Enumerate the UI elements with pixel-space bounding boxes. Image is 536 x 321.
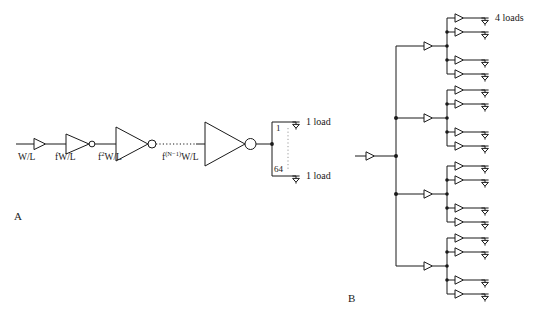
branch-group-2	[396, 86, 489, 154]
leaf-buffer	[447, 128, 489, 140]
stage-label-2: fW/L	[55, 153, 76, 163]
leaf-buffer	[447, 100, 489, 112]
leaf-buffer	[447, 276, 489, 288]
leaf-buffer	[447, 218, 489, 230]
circuit-diagram-canvas: .wire { stroke: #1a1a1a; stroke-width: 1…	[0, 0, 536, 321]
leaf-buffer	[447, 204, 489, 216]
leaf-buffer	[447, 248, 489, 260]
stage-label-3-suffix: W/L	[104, 152, 121, 162]
stage-label-1: W/L	[18, 153, 35, 163]
load-symbol-bottom	[292, 176, 299, 184]
leaf-buffer	[447, 290, 489, 302]
leaf-buffer	[447, 234, 489, 246]
stage-label-3: f2W/L	[98, 153, 122, 163]
panel-b-circuit	[355, 14, 489, 302]
leaf-buffer	[447, 56, 489, 68]
leaf-buffer	[447, 142, 489, 154]
leaf-buffer	[447, 176, 489, 188]
stage-label-4: f(N−1)W/L	[162, 153, 199, 163]
branch-group-4	[396, 234, 489, 302]
leaf-buffer	[447, 86, 489, 98]
leaf-buffer	[447, 162, 489, 174]
inverter-stage-4	[196, 122, 274, 166]
leaf-buffer	[447, 28, 489, 40]
panel-caption-a: A	[14, 211, 22, 222]
load-label-bottom: 1 load	[306, 171, 331, 181]
load-label-4-loads: 4 loads	[495, 13, 524, 23]
fanout-index-bottom: 64	[274, 165, 283, 174]
load-label-top: 1 load	[306, 117, 331, 127]
inverter-stage-1	[16, 138, 66, 149]
root-buffer	[355, 152, 398, 160]
figure-root: .wire { stroke: #1a1a1a; stroke-width: 1…	[0, 0, 536, 321]
stage-label-4-exponent: (N−1)	[165, 150, 181, 157]
stage-label-4-suffix: W/L	[181, 152, 198, 162]
leaf-buffer	[447, 14, 489, 26]
load-symbol-top	[292, 122, 299, 130]
branch-group-1	[396, 14, 489, 82]
fanout-index-top: 1	[276, 124, 281, 133]
leaf-buffer	[447, 70, 489, 82]
panel-caption-b: B	[348, 293, 356, 304]
inverter-stage-2	[66, 134, 116, 154]
branch-group-3	[396, 162, 489, 230]
